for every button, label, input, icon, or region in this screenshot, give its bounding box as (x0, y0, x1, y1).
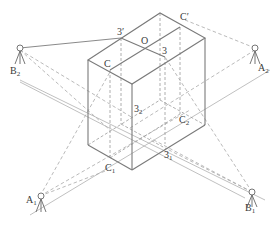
label-c-2: C2 (179, 115, 189, 127)
label-c-prime: C′ (180, 12, 189, 22)
label-3-2: 32 (134, 104, 143, 116)
label-3-1: 31 (164, 150, 173, 162)
sight-line-b2-3prime (20, 38, 121, 48)
label-c: C (104, 59, 111, 69)
diagram-canvas: 3′ O C′ 3 C 32 C2 31 C1 B2 A2 A1 B1 (0, 0, 277, 227)
label-b1: B1 (245, 203, 255, 215)
label-b2: B2 (10, 66, 20, 78)
label-a1: A1 (26, 195, 37, 207)
label-3-prime: 3′ (117, 27, 124, 37)
label-c-1: C1 (105, 163, 115, 175)
baseline-axes (20, 70, 270, 215)
tripod-a1 (36, 193, 46, 212)
label-o: O (141, 36, 148, 46)
label-a2: A2 (258, 63, 269, 75)
label-3: 3 (162, 46, 167, 56)
